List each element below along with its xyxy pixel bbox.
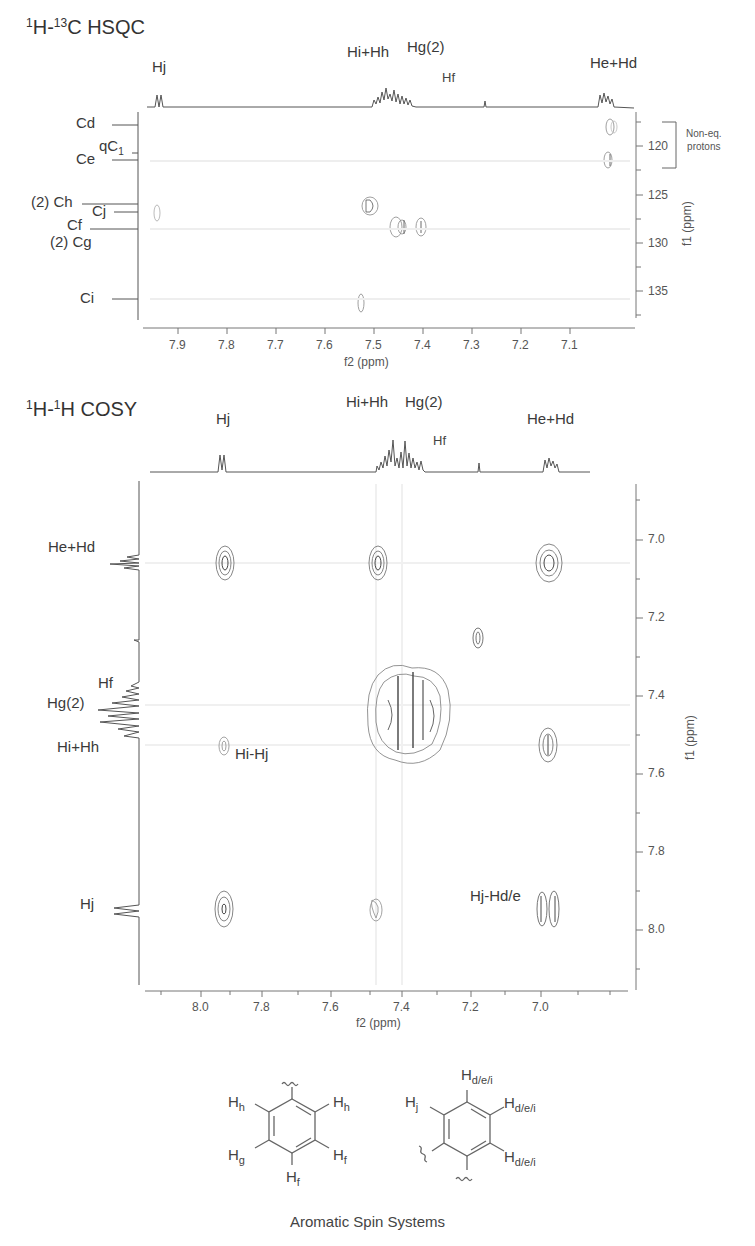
- ring1-label-hg-left: Hg: [228, 1146, 245, 1166]
- ring2-label-hdei-bottom: Hd/e/i: [504, 1148, 536, 1168]
- benzene-ring-1: [0, 0, 755, 1246]
- ring1-label-hh-left: Hh: [228, 1093, 245, 1113]
- ring1-label-hg-right: Hf: [333, 1146, 347, 1166]
- ring2-label-hj: Hj: [405, 1093, 418, 1113]
- structures-caption: Aromatic Spin Systems: [290, 1213, 445, 1230]
- ring1-label-hh-right: Hh: [333, 1093, 350, 1113]
- ring2-label-hdei-right: Hd/e/i: [504, 1094, 536, 1114]
- ring1-label-hf: Hf: [286, 1168, 300, 1188]
- ring2-label-hdei-top: Hd/e/i: [461, 1066, 493, 1086]
